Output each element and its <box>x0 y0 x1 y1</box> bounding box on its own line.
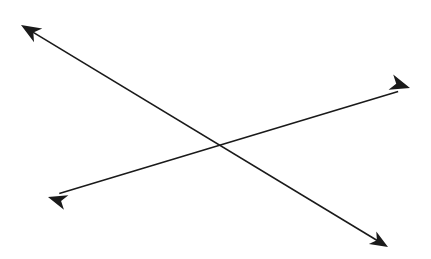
figure-background <box>0 0 431 259</box>
arrows-figure <box>0 0 431 259</box>
figure-canvas <box>0 0 431 259</box>
